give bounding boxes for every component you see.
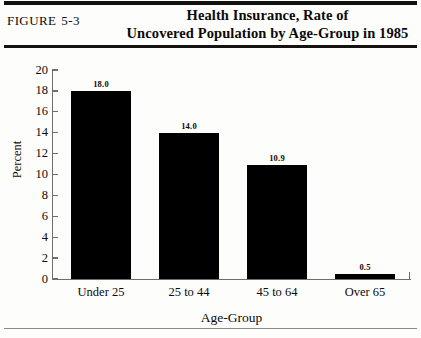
bar — [335, 274, 395, 279]
bar-value-label: 18.0 — [71, 80, 131, 89]
y-axis-tick — [52, 195, 58, 196]
y-axis-tick — [52, 237, 58, 238]
x-axis-category-label: 25 to 44 — [144, 286, 234, 299]
y-axis-tick-label: 2 — [20, 252, 48, 265]
y-axis-tick — [52, 153, 58, 154]
y-axis-tick — [52, 111, 58, 112]
x-axis-end-tick — [409, 272, 410, 280]
y-axis-tick — [52, 278, 58, 279]
figure-number-label: FIGURE — [7, 13, 56, 28]
bar-value-label: 0.5 — [335, 263, 395, 272]
bottom-rule — [4, 328, 417, 329]
y-axis-tick-label: 6 — [20, 210, 48, 223]
x-axis-category-label: Over 65 — [320, 286, 410, 299]
y-axis-tick — [52, 132, 58, 133]
bar — [247, 165, 307, 279]
bar — [71, 91, 131, 279]
x-axis-title: Age-Group — [52, 310, 411, 326]
figure-container: FIGURE5-3 Health Insurance, Rate of Unco… — [0, 0, 421, 338]
bar — [159, 133, 219, 279]
figure-number: FIGURE5-3 — [7, 13, 80, 29]
y-axis-tick-label: 20 — [20, 64, 48, 77]
y-axis-tick — [52, 69, 58, 70]
y-axis-tick — [52, 257, 58, 258]
figure-title-line-1: Health Insurance, Rate of — [120, 6, 415, 24]
x-axis-category-label: 45 to 64 — [232, 286, 322, 299]
bar-value-label: 10.9 — [247, 154, 307, 163]
y-axis-title: Percent — [10, 125, 25, 195]
top-rule — [4, 1, 417, 5]
bar-value-label: 14.0 — [159, 122, 219, 131]
figure-title: Health Insurance, Rate of Uncovered Popu… — [120, 6, 415, 42]
bar-chart-plot: 20181614121086420 18.014.010.90.5 Under … — [0, 48, 421, 338]
y-axis-tick-label: 18 — [20, 84, 48, 97]
y-axis-tick-label: 16 — [20, 105, 48, 118]
y-axis-tick — [52, 174, 58, 175]
figure-number-value: 5-3 — [61, 13, 80, 28]
y-axis-tick-label: 0 — [20, 273, 48, 286]
y-axis-tick-label: 4 — [20, 231, 48, 244]
x-axis-line — [52, 279, 411, 280]
x-axis-category-label: Under 25 — [56, 286, 146, 299]
y-axis-tick — [52, 216, 58, 217]
y-axis-tick — [52, 90, 58, 91]
figure-title-line-2: Uncovered Population by Age-Group in 198… — [120, 24, 415, 42]
